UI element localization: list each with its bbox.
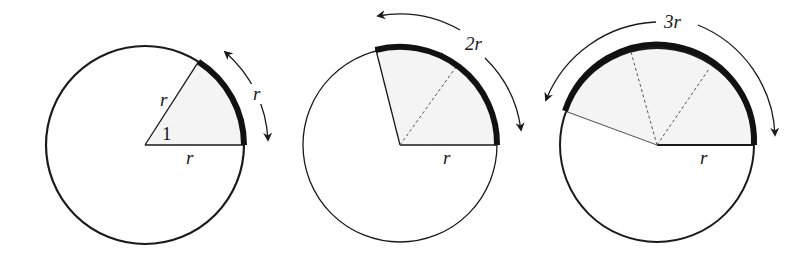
- side-label: r: [186, 147, 194, 168]
- panel-three-radians: 3r r: [546, 11, 775, 242]
- radius-label: r: [160, 89, 168, 110]
- arrow-arc-left: [378, 14, 460, 30]
- angle-label: 1: [162, 123, 172, 144]
- arc-label: 3r: [663, 11, 682, 32]
- arc-label: r: [253, 83, 261, 104]
- arc-label: 2r: [465, 33, 483, 54]
- panel-one-radian: r r 1 r: [46, 46, 268, 244]
- radius-label: r: [700, 147, 708, 168]
- radian-diagram: r r 1 r 2r r 3r r: [0, 0, 811, 266]
- radius-label: r: [443, 147, 451, 168]
- sector-fill: [565, 47, 754, 145]
- sector-fill: [376, 48, 498, 145]
- panel-two-radians: 2r r: [303, 14, 521, 242]
